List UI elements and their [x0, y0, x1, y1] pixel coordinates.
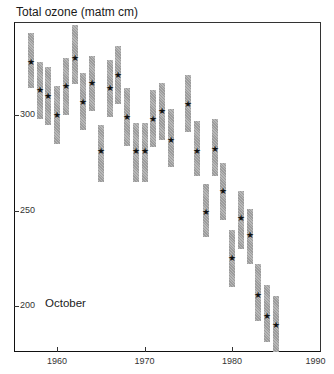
month-annotation: October	[45, 297, 86, 309]
star-marker-icon: ★	[236, 214, 245, 223]
star-marker-icon: ★	[53, 111, 62, 120]
star-marker-icon: ★	[166, 135, 175, 144]
star-marker-icon: ★	[123, 112, 132, 121]
y-tick-label: 200	[20, 300, 35, 310]
star-marker-icon: ★	[114, 70, 123, 79]
star-marker-icon: ★	[131, 147, 140, 156]
star-marker-icon: ★	[61, 82, 70, 91]
star-marker-icon: ★	[158, 107, 167, 116]
star-marker-icon: ★	[228, 254, 237, 263]
star-marker-icon: ★	[184, 99, 193, 108]
star-marker-icon: ★	[105, 84, 114, 93]
star-marker-icon: ★	[219, 187, 228, 196]
y-tick-label: 300	[20, 109, 35, 119]
star-marker-icon: ★	[271, 321, 280, 330]
star-marker-icon: ★	[149, 114, 158, 123]
star-marker-icon: ★	[26, 57, 35, 66]
star-marker-icon: ★	[140, 147, 149, 156]
x-tick-label: 1960	[47, 356, 67, 366]
y-tick	[14, 306, 19, 307]
star-marker-icon: ★	[70, 53, 79, 62]
star-marker-icon: ★	[88, 78, 97, 87]
y-tick	[14, 115, 19, 116]
x-tick-label: 1990	[305, 356, 325, 366]
star-marker-icon: ★	[201, 208, 210, 217]
x-tick-label: 1970	[134, 356, 154, 366]
x-tick	[232, 347, 233, 352]
x-tick	[145, 347, 146, 352]
y-axis-title: Total ozone (matm cm)	[16, 5, 138, 19]
star-marker-icon: ★	[44, 91, 53, 100]
star-marker-icon: ★	[96, 147, 105, 156]
star-marker-icon: ★	[35, 86, 44, 95]
star-marker-icon: ★	[193, 147, 202, 156]
star-marker-icon: ★	[254, 290, 263, 299]
y-tick	[14, 211, 19, 212]
star-marker-icon: ★	[263, 311, 272, 320]
x-tick-label: 1980	[222, 356, 242, 366]
star-marker-icon: ★	[79, 97, 88, 106]
y-tick-label: 250	[20, 205, 35, 215]
star-marker-icon: ★	[210, 145, 219, 154]
star-marker-icon: ★	[245, 231, 254, 240]
x-tick	[57, 347, 58, 352]
